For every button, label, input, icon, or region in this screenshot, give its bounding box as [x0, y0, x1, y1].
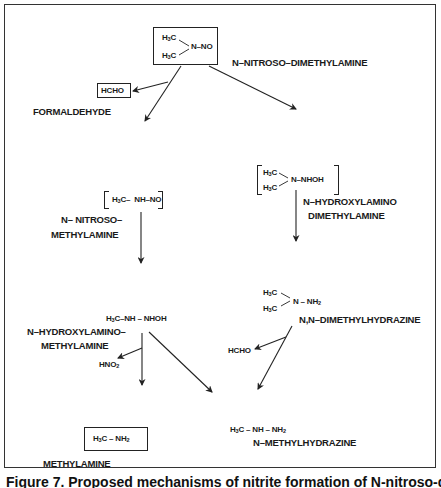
formaldehyde-name: FORMALDEHYDE	[33, 106, 111, 117]
bracket-left	[104, 191, 109, 209]
dmh-bonds	[280, 291, 292, 309]
nitrite-formula: HNO2	[99, 360, 119, 369]
hd-bonds	[278, 171, 290, 189]
hm-name-1: N–HYDROXYLAMINO–	[27, 326, 126, 337]
dmh-h3c-top: H3C	[263, 288, 277, 297]
hd-h3c-top: H3C	[263, 168, 277, 177]
hd-h3c-bottom: H3C	[263, 183, 277, 192]
methylamine-name: METHYLAMINE	[43, 458, 110, 469]
dmh-n-nh2: N – NH2	[293, 297, 321, 306]
bracket-right	[158, 191, 163, 209]
methylamine-formula: H3C – NH2	[93, 434, 129, 443]
nitroso-methylamine-formula: H3C– NH–NO	[112, 195, 161, 204]
mh-formula: H3C – NH – NH2	[230, 425, 286, 434]
nitroso-methylamine-name-2: METHYLAMINE	[51, 229, 118, 240]
ndma-name: N–NITROSO–DIMETHYLAMINE	[232, 57, 367, 68]
formaldehyde-2-formula: HCHO	[228, 346, 251, 355]
figure-caption: Figure 7. Proposed mechanisms of nitrite…	[6, 474, 441, 488]
dmh-h3c-bottom: H3C	[263, 304, 277, 313]
ndma-bonds	[178, 38, 192, 58]
dmh-name: N,N–DIMETHYLHYDRAZINE	[299, 314, 420, 325]
nitroso-methylamine-name-1: N– NITROSO–	[61, 214, 122, 225]
ndma-formula-h3c-top: H3C	[162, 33, 176, 42]
hm-formula: H3C–NH – NHOH	[106, 314, 166, 323]
bracket-left	[257, 165, 262, 195]
hd-n-nhoh: N–NHOH	[291, 175, 324, 184]
hd-name-2: DIMETHYLAMINE	[308, 210, 385, 221]
bracket-right	[334, 165, 339, 195]
hm-name-2: METHYLAMINE	[41, 340, 108, 351]
hd-name-1: N–HYDROXYLAMINO	[303, 196, 397, 207]
ndma-formula-n-no: N–NO	[191, 42, 212, 51]
formaldehyde-formula: HCHO	[101, 86, 124, 95]
mh-name: N–METHYLHYDRAZINE	[253, 437, 356, 448]
ndma-formula-h3c-bottom: H3C	[162, 51, 176, 60]
